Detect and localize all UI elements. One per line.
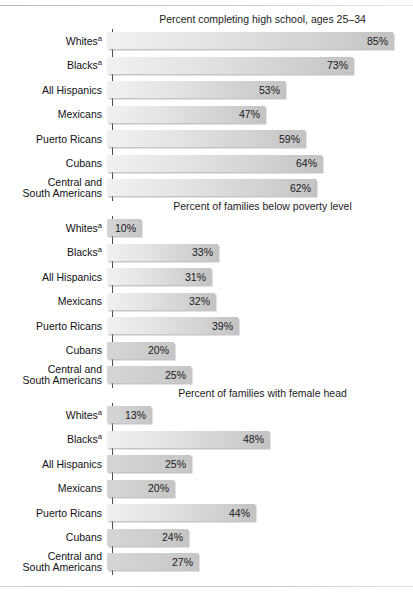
footnote-marker: a [98,245,102,254]
table-row: All Hispanics 31% [0,265,413,290]
category-label-text: Blacks [67,59,98,71]
category-label-puerto-ricans: Puerto Ricans [0,321,107,333]
bar-value: 62% [290,182,311,194]
category-label-blacks: Blacksa [0,434,107,446]
bar-area: 20% [107,477,413,502]
footnote-marker: a [98,58,102,67]
bar-value: 20% [148,344,169,356]
table-row: Mexicans 47% [0,103,413,128]
bar-blacks-p2: 33% [107,244,218,261]
bar-puerto-ricans-p2: 39% [107,317,238,334]
table-row: Blacksa 48% [0,428,413,453]
category-label-text: Mexicans [58,295,102,307]
bar-all-hispanics-p1: 53% [107,81,285,98]
panel-title-female-head: Percent of families with female head [0,384,413,403]
bar-central-south-americans-p1: 62% [107,179,316,196]
bar-area: 53% [107,78,413,103]
panel-1-rows: Whitesa 85% Blacksa 73% All Hispanics [0,29,413,201]
bar-value: 13% [125,409,146,421]
table-row: Puerto Ricans 39% [0,314,413,339]
category-label-text: Cubans [66,344,102,356]
bar-blacks-p1: 73% [107,57,353,74]
category-label-text: All Hispanics [42,271,102,283]
category-label-text: Puerto Ricans [36,133,102,145]
table-row: Cubans 20% [0,339,413,364]
bottom-divider [0,586,413,587]
bar-area: 20% [107,339,413,364]
table-row: Cubans 64% [0,152,413,177]
panel-title-high-school: Percent completing high school, ages 25–… [0,10,413,29]
bar-chart-figure: Percent completing high school, ages 25–… [0,0,413,600]
category-label-puerto-ricans: Puerto Ricans [0,134,107,146]
bar-area: 32% [107,290,413,315]
bar-value: 25% [165,369,186,381]
bar-area: 39% [107,314,413,339]
category-label-text: Central and South Americans [23,363,102,387]
bar-puerto-ricans-p3: 44% [107,504,255,521]
category-label-mexicans: Mexicans [0,296,107,308]
table-row: Mexicans 32% [0,290,413,315]
category-label-blacks: Blacksa [0,60,107,72]
bar-mexicans-p3: 20% [107,480,174,497]
table-row: Cubans 24% [0,526,413,551]
category-label-whites: Whitesa [0,223,107,235]
footnote-marker: a [98,220,102,229]
category-label-whites: Whitesa [0,410,107,422]
table-row: Mexicans 20% [0,477,413,502]
category-label-text: Central and South Americans [23,550,102,574]
category-label-text: Cubans [66,157,102,169]
category-label-all-hispanics: All Hispanics [0,459,107,471]
bar-value: 85% [367,35,388,47]
bar-mexicans-p1: 47% [107,106,265,123]
bar-value: 53% [259,84,280,96]
category-label-all-hispanics: All Hispanics [0,85,107,97]
bar-area: 47% [107,103,413,128]
table-row: Blacksa 73% [0,54,413,79]
bar-value: 59% [279,133,300,145]
bar-value: 27% [172,556,193,568]
bar-value: 10% [115,222,136,234]
category-label-text: Puerto Ricans [36,507,102,519]
category-label-text: Blacks [67,246,98,258]
bar-cubans-p2: 20% [107,342,174,359]
category-label-mexicans: Mexicans [0,109,107,121]
category-label-text: Whites [66,35,98,47]
bar-value: 24% [162,531,183,543]
category-label-text: Blacks [67,433,98,445]
bar-area: 33% [107,241,413,266]
panel-poverty: Percent of families below poverty level … [0,197,413,388]
category-label-text: All Hispanics [42,84,102,96]
bar-central-south-americans-p2: 25% [107,366,191,383]
category-label-central-south-americans: Central and South Americans [0,551,107,574]
table-row: Puerto Ricans 59% [0,127,413,152]
panel-female-head: Percent of families with female head Whi… [0,384,413,575]
table-row: Central and South Americans 27% [0,550,413,575]
category-label-text: Puerto Ricans [36,320,102,332]
category-label-cubans: Cubans [0,532,107,544]
category-label-puerto-ricans: Puerto Ricans [0,508,107,520]
category-label-text: Mexicans [58,108,102,120]
category-label-text: Central and South Americans [23,176,102,200]
category-label-text: Cubans [66,531,102,543]
bar-mexicans-p2: 32% [107,293,215,310]
category-label-text: Whites [66,222,98,234]
bar-area: 13% [107,403,413,428]
table-row: Whitesa 10% [0,216,413,241]
bar-value: 39% [212,320,233,332]
category-label-all-hispanics: All Hispanics [0,272,107,284]
table-row: Puerto Ricans 44% [0,501,413,526]
bar-blacks-p3: 48% [107,431,269,448]
bar-area: 24% [107,526,413,551]
bar-value: 48% [243,433,264,445]
category-label-text: All Hispanics [42,458,102,470]
bar-whites-p2: 10% [107,219,141,236]
bar-area: 25% [107,452,413,477]
bar-cubans-p3: 24% [107,529,188,546]
bar-all-hispanics-p3: 25% [107,455,191,472]
category-label-text: Mexicans [58,482,102,494]
bar-cubans-p1: 64% [107,155,322,172]
bar-value: 33% [192,246,213,258]
panel-3-rows: Whitesa 13% Blacksa 48% All Hispanics [0,403,413,575]
panel-2-rows: Whitesa 10% Blacksa 33% All Hispanics [0,216,413,388]
bar-area: 48% [107,428,413,453]
